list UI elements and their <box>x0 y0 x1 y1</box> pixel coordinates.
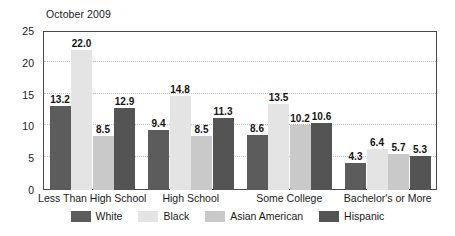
y-axis-tick-label: 5 <box>28 152 34 164</box>
bar-fill <box>345 163 366 190</box>
bar-group: 13.222.08.512.9 <box>50 31 136 190</box>
bar-fill <box>71 50 92 190</box>
bar-value-label: 4.3 <box>349 152 363 162</box>
bar-fill <box>170 96 191 190</box>
legend-swatch-icon <box>71 211 91 222</box>
bar: 10.6 <box>311 123 332 190</box>
bar-group: 9.414.88.511.3 <box>148 31 234 190</box>
bar-fill <box>388 154 409 190</box>
bar-value-label: 11.3 <box>214 107 233 117</box>
bar-fill <box>114 108 135 190</box>
bar: 8.5 <box>93 136 114 190</box>
bar-value-label: 5.3 <box>413 145 427 155</box>
legend-item[interactable]: White <box>71 210 123 222</box>
legend-label: Black <box>163 210 189 222</box>
bar-chart: October 2009 0510152025 13.222.08.512.99… <box>0 0 455 236</box>
bar: 13.5 <box>268 104 289 190</box>
bar-value-label: 22.0 <box>72 39 91 49</box>
bar-fill <box>311 123 332 190</box>
bar: 12.9 <box>114 108 135 190</box>
bar-fill <box>290 125 311 190</box>
legend-swatch-icon <box>205 211 225 222</box>
bar-value-label: 8.5 <box>96 125 110 135</box>
legend-item[interactable]: Black <box>138 210 189 222</box>
bar-value-label: 12.9 <box>115 97 134 107</box>
x-axis-category-label: Bachelor's or More <box>344 192 432 204</box>
y-axis-tick-label: 10 <box>22 120 34 132</box>
y-axis-tick-label: 20 <box>22 57 34 69</box>
y-axis-tick-label: 25 <box>22 25 34 37</box>
bar-fill <box>268 104 289 190</box>
bar-value-label: 8.5 <box>195 125 209 135</box>
bar: 5.7 <box>388 154 409 190</box>
chart-title: October 2009 <box>46 8 111 20</box>
bar-value-label: 8.6 <box>250 124 264 134</box>
x-axis-category-label: Less Than High School <box>38 192 146 204</box>
y-axis-tick-label: 15 <box>22 89 34 101</box>
bar: 8.5 <box>191 136 212 190</box>
bar-fill <box>410 156 431 190</box>
bar-value-label: 10.6 <box>312 112 331 122</box>
legend-label: Asian American <box>230 210 303 222</box>
bar: 8.6 <box>247 135 268 190</box>
bar: 4.3 <box>345 163 366 190</box>
bar: 10.2 <box>290 125 311 190</box>
bar-fill <box>213 118 234 190</box>
bar: 5.3 <box>410 156 431 190</box>
x-axis-category-label: Some College <box>256 192 322 204</box>
chart-legend: WhiteBlackAsian AmericanHispanic <box>0 210 455 222</box>
bar-group: 8.613.510.210.6 <box>247 31 333 190</box>
bar-value-label: 10.2 <box>290 114 309 124</box>
bar: 9.4 <box>148 130 169 190</box>
bar-value-label: 5.7 <box>392 143 406 153</box>
legend-label: Hispanic <box>344 210 384 222</box>
bar-fill <box>247 135 268 190</box>
bar-fill <box>93 136 114 190</box>
legend-label: White <box>96 210 123 222</box>
bar: 22.0 <box>71 50 92 190</box>
bar-fill <box>367 149 388 190</box>
legend-item[interactable]: Hispanic <box>319 210 384 222</box>
bar-value-label: 14.8 <box>170 85 189 95</box>
y-axis: 0510152025 <box>0 31 39 190</box>
bar-value-label: 6.4 <box>370 138 384 148</box>
bar-value-label: 13.5 <box>269 93 288 103</box>
bar-fill <box>50 106 71 190</box>
legend-swatch-icon <box>319 211 339 222</box>
bar: 6.4 <box>367 149 388 190</box>
x-axis-category-label: High School <box>162 192 219 204</box>
bar-group: 4.36.45.75.3 <box>345 31 431 190</box>
legend-swatch-icon <box>138 211 158 222</box>
bar: 13.2 <box>50 106 71 190</box>
bars-layer: 13.222.08.512.99.414.88.511.38.613.510.2… <box>43 31 437 190</box>
x-axis-labels: Less Than High SchoolHigh SchoolSome Col… <box>43 192 437 207</box>
legend-item[interactable]: Asian American <box>205 210 303 222</box>
bar-fill <box>148 130 169 190</box>
bar-value-label: 13.2 <box>50 95 69 105</box>
y-axis-tick-label: 0 <box>28 184 34 196</box>
bar: 14.8 <box>170 96 191 190</box>
bar-value-label: 9.4 <box>152 119 166 129</box>
bar: 11.3 <box>213 118 234 190</box>
bar-fill <box>191 136 212 190</box>
